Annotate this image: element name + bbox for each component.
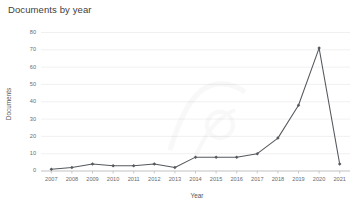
- x-axis-title: Year: [191, 192, 205, 199]
- chart-container: Documents by year 01020304050607080 2007…: [0, 0, 361, 204]
- x-axis-tick-label: 2008: [66, 176, 78, 182]
- data-series-documents: [50, 46, 342, 171]
- data-point-marker: [338, 162, 342, 166]
- data-point-marker: [70, 166, 74, 170]
- line-chart-plot: 01020304050607080 2007200820092010201120…: [0, 0, 361, 204]
- data-point-marker: [132, 164, 136, 168]
- x-axis-tick-label: 2017: [251, 176, 263, 182]
- y-axis-tick-label: 40: [30, 98, 36, 104]
- x-axis-tick-label: 2019: [292, 176, 304, 182]
- x-axis-tick-label: 2020: [313, 176, 325, 182]
- y-axis-tick-label: 30: [30, 116, 36, 122]
- x-axis-tick-label: 2014: [189, 176, 201, 182]
- y-axis-title: Documents: [5, 88, 12, 120]
- y-axis-tick-label: 20: [30, 133, 36, 139]
- x-axis-tick-label: 2011: [128, 176, 140, 182]
- x-axis: [41, 171, 350, 174]
- data-point-marker: [153, 162, 157, 166]
- x-axis-tick-label: 2013: [169, 176, 181, 182]
- x-axis-tick-label: 2010: [107, 176, 119, 182]
- y-axis-tick-labels: 01020304050607080: [30, 29, 36, 174]
- data-point-marker: [91, 162, 95, 166]
- x-axis-tick-label: 2021: [333, 176, 345, 182]
- data-point-marker: [235, 155, 239, 159]
- series-line-documents: [51, 48, 339, 169]
- y-axis-tick-label: 60: [30, 64, 36, 70]
- x-axis-tick-label: 2018: [272, 176, 284, 182]
- y-axis-tick-label: 50: [30, 81, 36, 87]
- y-axis-tick-label: 10: [30, 150, 36, 156]
- data-point-marker: [317, 46, 321, 50]
- data-point-marker: [50, 168, 54, 172]
- y-axis-tick-label: 70: [30, 46, 36, 52]
- x-axis-tick-label: 2009: [86, 176, 98, 182]
- y-axis-tick-label: 80: [30, 29, 36, 35]
- data-point-marker: [111, 164, 115, 168]
- x-axis-tick-label: 2015: [210, 176, 222, 182]
- x-axis-tick-label: 2012: [148, 176, 160, 182]
- gridlines: [41, 33, 350, 172]
- y-axis-tick-label: 0: [33, 167, 36, 173]
- x-axis-tick-label: 2007: [45, 176, 57, 182]
- x-axis-tick-labels: 2007200820092010201120122013201420152016…: [45, 176, 346, 182]
- data-point-marker: [194, 155, 198, 159]
- data-point-marker: [214, 155, 218, 159]
- x-axis-tick-label: 2016: [230, 176, 242, 182]
- data-point-marker: [173, 166, 177, 170]
